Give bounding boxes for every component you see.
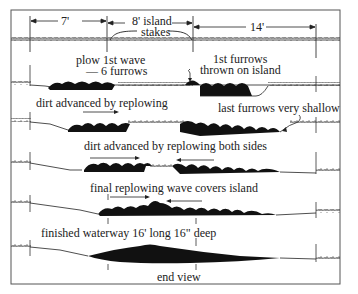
stage-4-profile	[11, 194, 340, 224]
stage-2-callout: last furrows very shallow	[218, 102, 340, 114]
stage-5-label: finished waterway 16' long 16" deep	[41, 227, 216, 239]
stage-4-label: final replowing wave covers island	[90, 182, 258, 194]
stakes-label: stakes	[141, 26, 170, 38]
stage-3-profile	[11, 152, 340, 174]
dimension-arrows	[31, 19, 315, 29]
stage-1-callout-line2: thrown on island	[200, 64, 281, 76]
waterway-diagram: 7' 8' island stakes 14' plow 1st wave — …	[0, 0, 358, 294]
stage-2-label: dirt advanced by replowing	[36, 97, 168, 109]
dimension-left-label: 7'	[61, 15, 69, 27]
stage-3-label: dirt advanced by replowing both sides	[84, 140, 267, 152]
caption-end-view: end view	[157, 271, 201, 283]
stage-1-sublabel: — 6 furrows	[86, 65, 147, 77]
dimension-right-label: 14'	[250, 21, 264, 33]
stage-5-profile	[11, 238, 340, 270]
stage-1-profile	[11, 65, 340, 96]
